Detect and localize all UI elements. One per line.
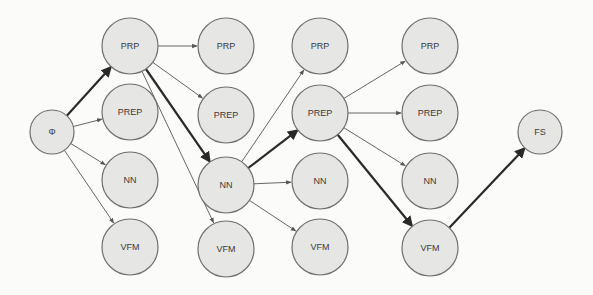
node-label: PREP: [418, 108, 443, 118]
node-label: PREP: [214, 110, 239, 120]
node-label: NN: [314, 176, 327, 186]
node-label: PRP: [311, 41, 330, 51]
best-path-edge-c2_nn-to-c3_prep: [248, 131, 297, 168]
node-label: NN: [424, 176, 437, 186]
node-label: VFM: [121, 242, 140, 252]
edge-c1_prp-to-c2_prep: [153, 62, 203, 98]
best-path-edge-c3_prep-to-c4_vfm: [338, 135, 412, 226]
lattice-diagram: ΦPRPPREPNNVFMPRPPREPNNVFMPRPPREPNNVFMPRP…: [0, 0, 593, 295]
node-label: FS: [534, 127, 546, 137]
node-c4_nn: NN: [402, 153, 458, 209]
node-end: FS: [518, 110, 562, 154]
node-label: VFM: [421, 243, 440, 253]
node-c1_prp: PRP: [102, 18, 158, 74]
edge-c3_prep-to-c4_prp: [344, 61, 405, 98]
node-label: PRP: [421, 41, 440, 51]
edge-c2_nn-to-c3_nn: [254, 182, 291, 184]
node-label: NN: [124, 175, 137, 185]
node-label: VFM: [311, 242, 330, 252]
edge-start-to-c1_prep: [73, 119, 102, 126]
best-path-edge-c4_vfm-to-end: [449, 149, 524, 228]
node-label: PRP: [217, 41, 236, 51]
node-c3_prep: PREP: [292, 85, 348, 141]
node-c4_prep: PREP: [402, 85, 458, 141]
node-c4_vfm: VFM: [402, 220, 458, 276]
node-c1_nn: NN: [102, 152, 158, 208]
node-c1_vfm: VFM: [102, 219, 158, 275]
node-c3_nn: NN: [292, 153, 348, 209]
nodes-layer: ΦPRPPREPNNVFMPRPPREPNNVFMPRPPREPNNVFMPRP…: [30, 18, 562, 277]
edge-c3_prep-to-c4_nn: [344, 128, 406, 166]
diagram-canvas: ΦPRPPREPNNVFMPRPPREPNNVFMPRPPREPNNVFMPRP…: [0, 0, 593, 295]
node-label: NN: [220, 180, 233, 190]
node-start: Φ: [30, 110, 74, 154]
node-c2_prp: PRP: [198, 18, 254, 74]
edge-start-to-c1_nn: [71, 144, 106, 165]
node-c3_vfm: VFM: [292, 219, 348, 275]
node-label: PREP: [118, 107, 143, 117]
node-label: Φ: [48, 127, 55, 137]
node-label: VFM: [217, 244, 236, 254]
node-c3_prp: PRP: [292, 18, 348, 74]
node-c4_prp: PRP: [402, 18, 458, 74]
node-c1_prep: PREP: [102, 84, 158, 140]
node-c2_prep: PREP: [198, 87, 254, 143]
node-label: PREP: [308, 108, 333, 118]
node-c2_vfm: VFM: [198, 221, 254, 277]
node-label: PRP: [121, 41, 140, 51]
edge-c2_nn-to-c3_vfm: [249, 200, 295, 231]
node-c2_nn: NN: [198, 157, 254, 213]
